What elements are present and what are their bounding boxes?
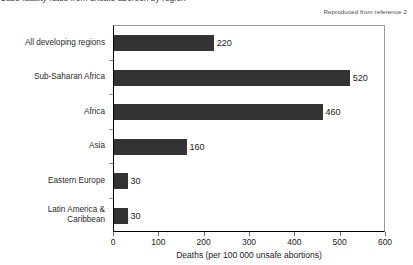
y-axis-category-label: Africa	[0, 107, 105, 117]
x-axis-tick	[294, 232, 295, 236]
y-axis-category-label: Eastern Europe	[0, 176, 105, 186]
bar-row: 460	[114, 104, 386, 120]
bar-value-label: 220	[214, 38, 232, 48]
x-axis-tick	[113, 232, 114, 236]
x-axis-tick-label: 600	[378, 237, 392, 247]
y-axis-tick	[109, 163, 113, 164]
y-axis-tick	[109, 60, 113, 61]
bar	[114, 208, 128, 224]
x-axis-title: Deaths (per 100 000 unsafe abortions)	[113, 250, 385, 260]
bar-row: 30	[114, 208, 386, 224]
bar	[114, 173, 128, 189]
x-axis-tick-label: 200	[197, 237, 211, 247]
bar-value-label: 30	[128, 211, 141, 221]
bar-row: 520	[114, 70, 386, 86]
bar	[114, 104, 323, 120]
x-axis-tick-label: 0	[111, 237, 116, 247]
bar	[114, 139, 187, 155]
x-axis-tick	[249, 232, 250, 236]
plot-area: 2205204601603030	[113, 25, 385, 232]
x-axis-tick-label: 400	[287, 237, 301, 247]
x-axis-tick-label: 300	[242, 237, 256, 247]
bar	[114, 35, 214, 51]
bar-value-label: 460	[323, 107, 341, 117]
bar-chart: All developing regionsSub-Saharan Africa…	[0, 0, 413, 265]
bar-row: 30	[114, 173, 386, 189]
x-axis: Deaths (per 100 000 unsafe abortions) 01…	[113, 232, 385, 262]
bar-value-label: 520	[350, 73, 368, 83]
y-axis-tick	[109, 94, 113, 95]
bar	[114, 70, 350, 86]
y-axis-tick	[109, 129, 113, 130]
y-axis-labels: All developing regionsSub-Saharan Africa…	[0, 25, 109, 232]
x-axis-tick-label: 500	[333, 237, 347, 247]
y-axis-category-label: Asia	[0, 141, 105, 151]
y-axis-category-label: Latin America & Caribbean	[0, 205, 105, 224]
y-axis-category-label: All developing regions	[0, 38, 105, 48]
bar-row: 160	[114, 139, 386, 155]
y-axis-tick	[109, 198, 113, 199]
bar-value-label: 160	[187, 142, 205, 152]
x-axis-tick	[385, 232, 386, 236]
x-axis-tick-label: 100	[151, 237, 165, 247]
bar-row: 220	[114, 35, 386, 51]
y-axis-category-label: Sub-Saharan Africa	[0, 72, 105, 82]
x-axis-tick	[204, 232, 205, 236]
bar-value-label: 30	[128, 176, 141, 186]
x-axis-tick	[158, 232, 159, 236]
x-axis-tick	[340, 232, 341, 236]
